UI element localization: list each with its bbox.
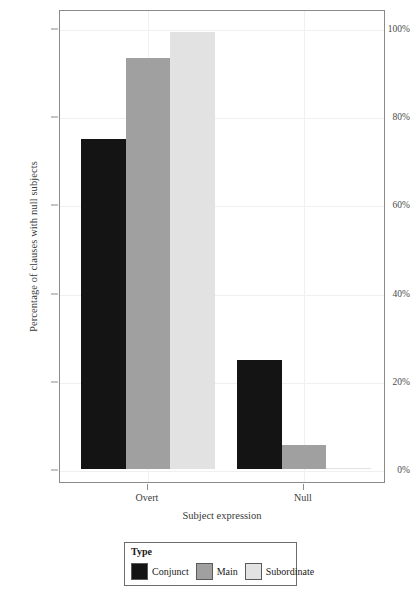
bar-overt-subordinate <box>170 32 215 469</box>
bar-chart: Percentage of clauses with null subjects… <box>0 0 410 592</box>
y-tick-mark <box>51 117 58 118</box>
gridline <box>60 471 384 472</box>
legend-item-main[interactable]: Main <box>196 563 238 580</box>
x-axis-title: Subject expression <box>59 510 385 521</box>
x-tick-label: Overt <box>136 492 159 503</box>
gridline <box>60 118 384 119</box>
legend-swatch-icon <box>245 563 262 580</box>
legend-label: Subordinate <box>266 566 314 577</box>
bar-null-main <box>282 445 327 469</box>
legend: Type ConjunctMainSubordinate <box>124 542 297 586</box>
legend-swatch-icon <box>131 563 148 580</box>
x-tick-mark <box>147 484 148 490</box>
gridline <box>60 30 384 31</box>
y-tick-mark <box>51 29 58 30</box>
bar-overt-main <box>126 58 171 469</box>
bar-null-subordinate <box>326 468 371 469</box>
legend-items: ConjunctMainSubordinate <box>131 561 292 581</box>
y-tick-mark <box>51 470 58 471</box>
plot-panel <box>59 10 385 483</box>
y-tick-mark <box>51 293 58 294</box>
bar-null-conjunct <box>237 360 282 469</box>
gridline <box>304 11 305 482</box>
legend-item-conjunct[interactable]: Conjunct <box>131 563 189 580</box>
legend-label: Conjunct <box>152 566 189 577</box>
legend-label: Main <box>217 566 238 577</box>
y-axis-title: Percentage of clauses with null subjects <box>22 10 44 483</box>
legend-item-subordinate[interactable]: Subordinate <box>245 563 314 580</box>
x-tick-label: Null <box>294 492 312 503</box>
y-tick-mark <box>51 205 58 206</box>
legend-swatch-icon <box>196 563 213 580</box>
x-tick-mark <box>303 484 304 490</box>
legend-title: Type <box>131 546 152 557</box>
bar-overt-conjunct <box>81 139 126 469</box>
y-tick-mark <box>51 381 58 382</box>
